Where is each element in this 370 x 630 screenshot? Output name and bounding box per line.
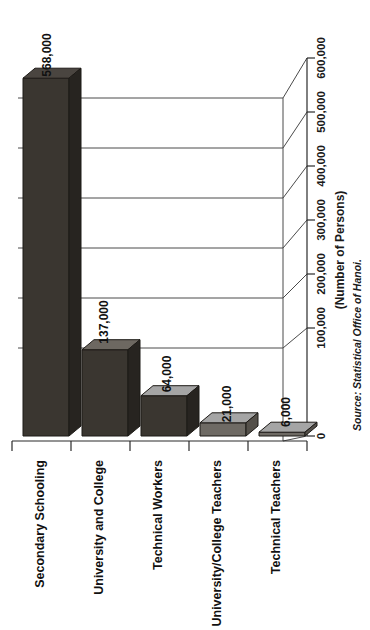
value-tick-label-400000: 400,000 — [315, 145, 327, 187]
portrait-chart: 0 100,000 200,000 300,000 400,000 500,00… — [0, 0, 370, 630]
bar-front-face — [23, 78, 69, 436]
persp-400000 — [283, 166, 307, 198]
bar-side-face — [69, 68, 81, 436]
bar-value-label: 21,000 — [220, 385, 234, 422]
bar-chart-portrait: 0 100,000 200,000 300,000 400,000 500,00… — [0, 0, 370, 630]
bar-value-label: 6,000 — [279, 397, 293, 427]
category-label-technical-teachers: Technical Teachers — [269, 460, 283, 574]
category-labels: Secondary Schooling University and Colle… — [33, 460, 283, 627]
category-label-university-and-college: University and College — [92, 460, 106, 595]
bar-secondary-schooling[interactable]: 568,000 — [23, 33, 81, 436]
value-tick-label-0: 0 — [315, 433, 327, 439]
category-label-technical-workers: Technical Workers — [151, 460, 165, 570]
value-tick-label-200000: 200,000 — [315, 253, 327, 295]
value-tick-label-500000: 500,000 — [315, 91, 327, 133]
floor-diagonal — [283, 436, 307, 441]
bar-front-face — [141, 396, 187, 436]
value-axis-title: (Number of Persons) — [333, 191, 347, 310]
bar-value-label: 137,000 — [97, 300, 111, 344]
bar-front-face — [259, 432, 305, 436]
persp-300000 — [283, 220, 307, 248]
value-axis: 0 100,000 200,000 300,000 400,000 500,00… — [307, 37, 327, 439]
bar-university-college-teachers[interactable]: 21,000 — [200, 385, 258, 436]
persp-500000 — [283, 112, 307, 148]
value-tick-label-100000: 100,000 — [315, 307, 327, 349]
bar-side-face — [128, 340, 140, 436]
bar-value-label: 568,000 — [40, 33, 54, 77]
value-tick-label-300000: 300,000 — [315, 199, 327, 241]
bar-value-label: 64,000 — [160, 355, 174, 392]
value-tick-label-600000: 600,000 — [315, 37, 327, 79]
source-note: Source: Statistical Office of Hanoi. — [351, 259, 363, 431]
persp-200000 — [283, 274, 307, 298]
bar-technical-teachers[interactable]: 6,000 — [259, 397, 317, 436]
category-axis — [12, 441, 307, 451]
category-label-secondary-schooling: Secondary Schooling — [33, 460, 47, 588]
bar-front-face — [200, 423, 246, 436]
category-label-university-college-teachers: University/College Teachers — [210, 460, 224, 627]
persp-100000 — [283, 328, 307, 348]
bar-technical-workers[interactable]: 64,000 — [141, 355, 199, 436]
persp-600000 — [283, 58, 307, 98]
bar-university-and-college[interactable]: 137,000 — [82, 300, 140, 436]
bar-front-face — [82, 350, 128, 436]
